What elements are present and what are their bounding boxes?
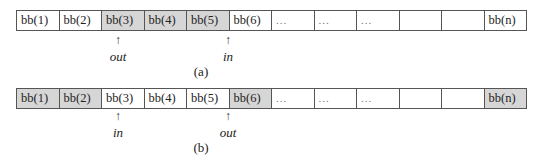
out-pointer-a: ↑ out [98,34,138,64]
buffer-cell: bb(n) [485,11,527,30]
out-pointer-b: ↑ out [208,110,248,140]
buffer-cell: ... [315,89,358,108]
buffer-cell: ... [272,11,315,30]
buffer-row-b: bb(1) bb(2) bb(3) bb(4) bb(5) bb(6) ... … [16,88,527,109]
buffer-cell [400,89,443,108]
up-arrow-icon: ↑ [98,110,138,122]
in-pointer-b: ↑ in [98,110,138,140]
buffer-cell: bb(3) [102,11,145,30]
buffer-cell [400,11,443,30]
up-arrow-icon: ↑ [208,110,248,122]
buffer-cell: bb(1) [17,89,60,108]
buffer-cell [442,89,485,108]
buffer-cell: ... [315,11,358,30]
buffer-cell: ... [357,11,400,30]
up-arrow-icon: ↑ [208,34,248,46]
buffer-cell: bb(1) [17,11,60,30]
buffer-cell: bb(6) [230,89,273,108]
buffer-cell [442,11,485,30]
pointer-label: in [208,49,248,64]
pointer-label: in [98,125,138,140]
buffer-cell: bb(4) [145,89,188,108]
buffer-cell: bb(n) [485,89,527,108]
buffer-cell: bb(5) [187,11,230,30]
buffer-cell: ... [357,89,400,108]
buffer-row-a: bb(1) bb(2) bb(3) bb(4) bb(5) bb(6) ... … [16,10,527,31]
buffer-cell: ... [272,89,315,108]
pointer-label: out [208,125,248,140]
buffer-cell: bb(4) [145,11,188,30]
buffer-cell: bb(5) [187,89,230,108]
in-pointer-a: ↑ in [208,34,248,64]
buffer-cell: bb(6) [230,11,273,30]
caption-a: (a) [186,64,216,80]
pointer-label: out [98,49,138,64]
caption-b: (b) [186,140,216,156]
up-arrow-icon: ↑ [98,34,138,46]
buffer-cell: bb(3) [102,89,145,108]
buffer-cell: bb(2) [60,89,103,108]
buffer-cell: bb(2) [60,11,103,30]
